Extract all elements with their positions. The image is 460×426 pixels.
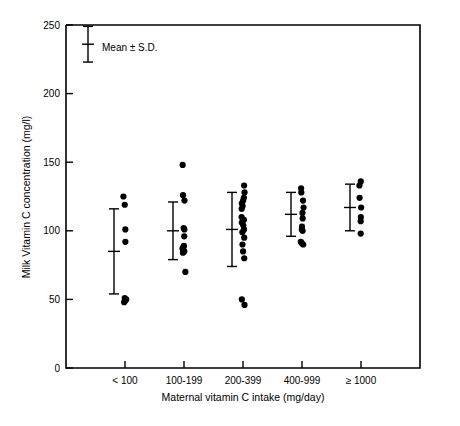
data-point [241,235,247,241]
data-point [182,269,188,275]
x-axis-ticks: < 100100-199200-399400-999≥ 1000 [112,361,376,386]
y-tick-label: 250 [43,20,60,31]
error-bar [285,192,297,236]
data-layer [108,162,364,308]
data-point [180,162,186,168]
data-point [121,299,127,305]
data-point [239,229,245,235]
legend-label: Mean ± S.D. [102,42,158,53]
data-point [120,193,126,199]
series-group [344,178,364,236]
data-point [239,206,245,212]
data-point [358,204,364,210]
data-point [181,198,187,204]
data-point [299,210,305,216]
data-point [358,230,364,236]
chart-figure: 050100150200250 < 100100-199200-399400-9… [0,0,460,426]
x-tick-label: < 100 [112,375,138,386]
data-point [241,182,247,188]
data-point [122,202,128,208]
data-point [181,226,187,232]
y-axis-title: Milk Vitamin C concentration (mg/l) [20,116,32,279]
data-point [180,192,186,198]
error-bar [226,192,238,266]
error-bar [167,202,179,260]
y-axis-ticks: 050100150200250 [43,20,73,374]
x-tick-label: 100-199 [166,375,203,386]
data-point [300,241,306,247]
data-point [241,302,247,308]
y-tick-label: 100 [43,225,60,236]
data-point [356,182,362,188]
series-group [108,193,129,305]
series-group [167,162,188,275]
y-tick-label: 200 [43,88,60,99]
data-point [181,233,187,239]
data-point [241,189,247,195]
scatter-plot-svg: 050100150200250 < 100100-199200-399400-9… [0,0,460,426]
legend-errorbar-icon [82,26,94,62]
data-point [239,296,245,302]
data-point [180,250,186,256]
y-tick-label: 50 [49,294,61,305]
series-group [226,182,248,308]
data-point [357,195,363,201]
data-point [241,255,247,261]
data-point [300,204,306,210]
data-point [299,228,305,234]
y-tick-label: 0 [54,363,60,374]
data-point [122,226,128,232]
error-bar [344,184,356,231]
series-group [285,185,307,247]
data-point [300,215,306,221]
data-point [300,198,306,204]
x-tick-label: 200-399 [225,375,262,386]
x-tick-label: 400-999 [284,375,321,386]
x-axis-title: Maternal vitamin C intake (mg/day) [162,391,325,403]
data-point [239,241,245,247]
data-point [240,248,246,254]
error-bar [108,209,120,294]
legend: Mean ± S.D. [82,26,158,62]
data-point [358,218,364,224]
data-point [122,239,128,245]
y-tick-label: 150 [43,157,60,168]
x-tick-label: ≥ 1000 [346,375,377,386]
data-point [298,189,304,195]
